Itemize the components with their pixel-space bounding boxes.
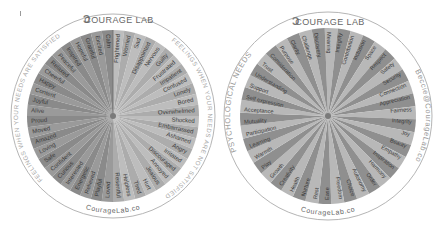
- need-label: Ease: [324, 187, 330, 200]
- brand-name: COURAGE LAB: [84, 15, 153, 25]
- courage-lab-logo: ƆCOURAGE LAB: [83, 14, 154, 25]
- feeling-satisfied-label: Alive: [31, 107, 45, 114]
- feelings-wheel: FrightenedWorriedSadDisappointedNervousG…: [10, 8, 216, 224]
- feeling-satisfied-label: Loved: [104, 181, 111, 198]
- feeling-satisfied-label: Proud: [31, 117, 47, 124]
- need-label: Meaning: [326, 32, 332, 53]
- courage-lab-logo: ƆCOURAGE LAB: [292, 16, 365, 27]
- needs-wheel: MeaningIntegrityContributionInclusionSpa…: [220, 8, 436, 224]
- feeling-satisfied-label: Calm: [105, 34, 112, 48]
- brand-name: COURAGE LAB: [295, 17, 364, 27]
